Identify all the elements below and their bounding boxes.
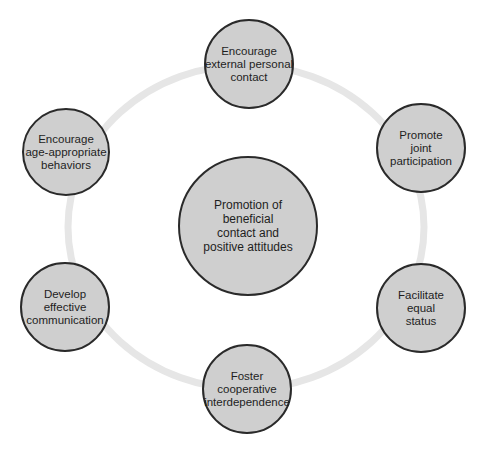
node-develop-effective-communication: Develop effective communication [20,262,110,352]
center-node-label: Promotion of beneficial contact and posi… [199,198,296,254]
node-label: Promote joint participation [386,129,456,168]
node-label: Encourage age-appropriate behaviors [21,133,110,172]
center-node: Promotion of beneficial contact and posi… [178,156,318,296]
node-encourage-external-contact: Encourage external personal contact [204,19,294,109]
node-encourage-age-appropriate-behaviors: Encourage age-appropriate behaviors [22,108,110,196]
node-facilitate-equal-status: Facilitate equal status [376,263,466,353]
node-promote-joint-participation: Promote joint participation [376,103,466,193]
node-label: Foster cooperative interdependence [200,370,294,409]
diagram-canvas: Promotion of beneficial contact and posi… [0,0,486,453]
node-label: Develop effective communication [22,288,107,327]
node-label: Facilitate equal status [394,289,448,328]
node-foster-cooperative-interdependence: Foster cooperative interdependence [202,344,292,434]
node-label: Encourage external personal contact [201,45,297,84]
